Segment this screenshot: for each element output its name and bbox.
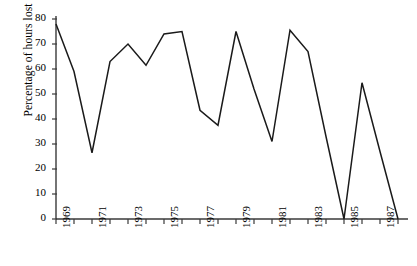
x-axis-tick-label: 1971: [96, 206, 108, 228]
x-axis-tick-label: 1985: [348, 206, 360, 228]
y-axis-tick-label: 0: [22, 211, 46, 223]
x-axis-tick-label: 1987: [384, 206, 396, 228]
y-axis-tick-label: 20: [22, 161, 46, 173]
y-axis-tick-label: 40: [22, 111, 46, 123]
x-axis-tick-label: 1983: [312, 206, 324, 228]
x-axis-tick-label: 1969: [60, 206, 72, 228]
y-axis-tick-label: 70: [22, 36, 46, 48]
y-axis-tick-label: 30: [22, 136, 46, 148]
x-axis-tick-label: 1973: [132, 206, 144, 228]
x-axis-tick-label: 1975: [168, 206, 180, 228]
y-axis-tick-label: 60: [22, 61, 46, 73]
x-axis-tick-label: 1981: [276, 206, 288, 228]
x-axis-tick-label: 1979: [240, 206, 252, 228]
line-chart: Percentage of hours lost 010203040506070…: [0, 0, 417, 266]
x-axis-tick-label: 1977: [204, 206, 216, 228]
data-series-line: [56, 24, 398, 219]
y-axis-tick-label: 50: [22, 86, 46, 98]
y-axis-tick-label: 10: [22, 186, 46, 198]
y-axis-tick-label: 80: [22, 11, 46, 23]
